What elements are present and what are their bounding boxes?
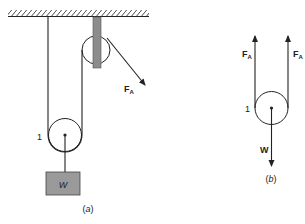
caption-a: (a) — [82, 204, 93, 214]
pulley-1-label: 1 — [37, 132, 42, 142]
figure-a: FA 1 W (a) — [8, 10, 149, 214]
ceiling-hatching — [8, 10, 149, 16]
pulley-bracket — [93, 17, 101, 68]
force-fa-arrow — [107, 38, 145, 85]
force-fa-label: FA — [124, 84, 135, 95]
caption-b: (b) — [265, 174, 276, 184]
figure-b: FA FA 1 W (b) — [242, 36, 304, 184]
pulley-diagram: FA 1 W (a) FA FA 1 W (b) — [0, 0, 305, 224]
free-body-pulley-label: 1 — [245, 104, 250, 114]
weight-force-label: W — [260, 145, 269, 155]
force-fa-left-label: FA — [242, 49, 253, 60]
force-fa-right-label: FA — [293, 49, 304, 60]
